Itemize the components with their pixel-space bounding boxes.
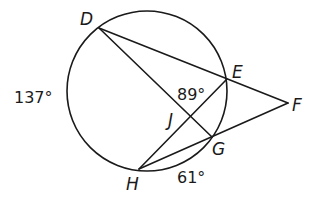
geometry-diagram: D E F G H J 137° 89° 61° bbox=[0, 0, 313, 199]
secant-HF bbox=[139, 103, 288, 169]
arc-label-HG: 61° bbox=[177, 168, 205, 187]
point-label-D: D bbox=[80, 9, 93, 29]
arc-label-DH: 137° bbox=[14, 88, 53, 107]
point-label-J: J bbox=[165, 110, 173, 130]
point-label-G: G bbox=[212, 139, 225, 159]
point-label-F: F bbox=[292, 95, 302, 115]
point-label-H: H bbox=[126, 174, 139, 194]
chord-DG bbox=[99, 28, 212, 137]
diagram-canvas: D E F G H J 137° 89° 61° bbox=[0, 0, 313, 199]
point-label-E: E bbox=[232, 62, 243, 82]
angle-label-J: 89° bbox=[177, 85, 205, 104]
